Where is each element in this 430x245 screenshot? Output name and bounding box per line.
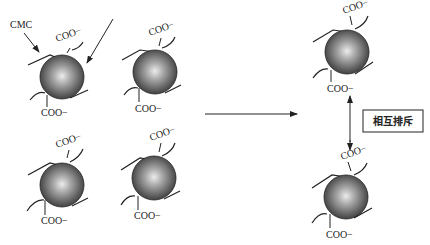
nanoparticle	[132, 156, 176, 200]
particle-3: COO− COO−	[27, 130, 88, 226]
repulsion-label: 相互排斥	[373, 115, 413, 127]
repulsion-label-box: 相互排斥	[363, 110, 423, 132]
coo-label: COO−	[41, 215, 68, 226]
particle-6: COO− COO−	[312, 142, 372, 240]
particle-5: COO− COO−	[313, 0, 373, 94]
cmc-pointer-arrow	[87, 19, 113, 63]
coo-label: COO−	[147, 18, 176, 38]
nanoparticle	[40, 163, 84, 207]
cmc-label: CMC	[10, 19, 33, 30]
nanoparticle	[133, 50, 177, 94]
coo-label: COO−	[339, 142, 368, 162]
nanoparticle	[325, 30, 369, 74]
coo-label: COO−	[135, 103, 162, 114]
coo-label: COO−	[54, 130, 83, 150]
coo-label: COO−	[327, 83, 354, 94]
coo-label: COO−	[341, 0, 370, 16]
diagram-canvas: COO− COO− CMC COO− COO− COO− COO−	[0, 0, 430, 245]
coo-label: COO−	[326, 229, 353, 240]
cmc-pointer-arrow	[24, 33, 39, 52]
nanoparticle	[40, 55, 84, 99]
coo-label: COO−	[54, 24, 83, 44]
coo-label: COO−	[41, 107, 68, 118]
nanoparticle	[324, 175, 368, 219]
coo-label: COO−	[134, 210, 161, 221]
particle-1: COO− COO−	[28, 24, 88, 118]
coo-label: COO−	[148, 123, 177, 143]
particle-2: COO− COO−	[122, 18, 181, 114]
particle-4: COO− COO−	[121, 123, 180, 221]
